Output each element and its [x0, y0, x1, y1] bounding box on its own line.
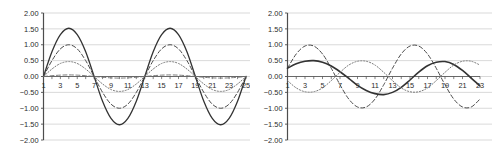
y-tick-label-1: 1.50 [24, 25, 38, 34]
y-tick-label-2: 1.00 [268, 40, 282, 49]
y-tick-label-1: 1.50 [268, 25, 282, 34]
y-tick-label-4: 0.00 [24, 72, 38, 81]
y-tick-label-5: −0.50 [264, 88, 283, 97]
y-tick-label-3: 0.50 [24, 56, 38, 65]
left-chart-svg: 2.001.501.000.500.00−0.50−1.00−1.50−2.00… [0, 0, 250, 155]
x-tick-label-8: 17 [174, 81, 182, 90]
x-tick-label-0: 1 [285, 81, 289, 90]
x-axis-labels: 135791113151719212325 [41, 81, 250, 90]
y-tick-label-2: 1.00 [24, 40, 38, 49]
y-tick-label-8: −2.00 [264, 136, 283, 145]
left-chart-panel: 2.001.501.000.500.00−0.50−1.00−1.50−2.00… [0, 0, 250, 155]
y-tick-label-0: 2.00 [24, 9, 38, 18]
y-tick-label-8: −2.00 [20, 136, 39, 145]
figure-container: 2.001.501.000.500.00−0.50−1.00−1.50−2.00… [0, 0, 492, 155]
y-tick-label-5: −0.50 [20, 88, 39, 97]
x-tick-label-6: 13 [388, 81, 396, 90]
x-tick-label-5: 11 [371, 81, 379, 90]
y-axis-ticks: 2.001.501.000.500.00−0.50−1.00−1.50−2.00 [20, 9, 44, 145]
y-tick-label-7: −1.50 [264, 120, 283, 129]
x-tick-label-7: 15 [158, 81, 166, 90]
x-tick-label-2: 5 [75, 81, 79, 90]
right-chart-panel: 2.001.501.000.500.00−0.50−1.00−1.50−2.00… [246, 0, 492, 155]
x-tick-label-10: 21 [458, 81, 466, 90]
y-axis-ticks: 2.001.501.000.500.00−0.50−1.00−1.50−2.00 [264, 9, 288, 145]
y-tick-label-7: −1.50 [20, 120, 39, 129]
x-axis-labels: 1357911131517192123 [285, 81, 484, 90]
y-tick-label-0: 2.00 [268, 9, 282, 18]
x-tick-label-1: 3 [303, 81, 307, 90]
y-tick-label-3: 0.50 [268, 56, 282, 65]
x-tick-label-1: 3 [58, 81, 62, 90]
right-chart-svg: 2.001.501.000.500.00−0.50−1.00−1.50−2.00… [246, 0, 492, 155]
y-tick-label-4: 0.00 [268, 72, 282, 81]
y-tick-label-6: −1.00 [264, 104, 283, 113]
x-tick-label-4: 9 [109, 81, 113, 90]
x-tick-label-0: 1 [41, 81, 45, 90]
y-tick-label-6: −1.00 [20, 104, 39, 113]
